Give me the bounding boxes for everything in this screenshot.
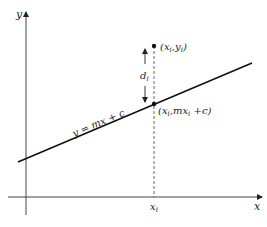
data-point [152,44,156,48]
x-axis-label: x [254,200,261,213]
x-i-tick-label: xi [150,201,158,214]
y-axis-label: y [15,8,23,21]
data-point-label: (xi,yi) [160,41,187,54]
line-point-label: (xi,mxi +c) [158,105,212,118]
residual-label: di [140,70,149,83]
line-equation-label: y = mx + c [70,107,127,139]
regression-diagram: y x y = mx + c (xi,yi) (xi,mxi +c) di xi [0,0,267,227]
line-point [152,102,156,106]
regression-line [18,63,252,162]
